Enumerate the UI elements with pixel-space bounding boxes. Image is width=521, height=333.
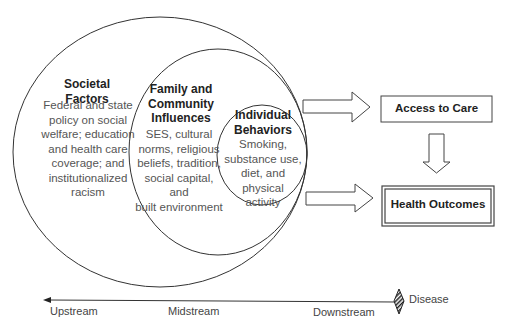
midstream-label: Midstream: [168, 305, 219, 317]
access-to-care-label: Access to Care: [381, 102, 492, 114]
text-line: activity: [223, 195, 303, 210]
text-line: Influences: [145, 111, 217, 126]
arrow-to-outcomes-icon: [306, 184, 373, 212]
text-line: Individual: [228, 108, 298, 123]
arrow-down-icon: [423, 134, 450, 173]
text-line: racism: [36, 185, 140, 200]
text-line: welfare; education: [36, 127, 140, 142]
text-line: Federal and state: [36, 98, 140, 113]
health-outcomes-label: Health Outcomes: [382, 198, 494, 210]
disease-label: Disease: [409, 293, 449, 305]
text-line: norms, religious: [134, 142, 224, 157]
text-line: policy on social: [36, 113, 140, 128]
downstream-label: Downstream: [313, 306, 375, 318]
text-line: beliefs, tradition,: [134, 156, 224, 171]
family-community-title: Family and Community Influences: [145, 82, 217, 126]
societal-factors-text: Federal and state policy on social welfa…: [36, 98, 140, 200]
text-line: diet, and: [223, 166, 303, 181]
text-line: built environment: [134, 200, 224, 215]
individual-behaviors-text: Smoking, substance use, diet, and physic…: [223, 137, 303, 210]
text-line: and health care: [36, 142, 140, 157]
text-line: SES, cultural: [134, 127, 224, 142]
text-line: Family and: [145, 82, 217, 97]
text-line: coverage; and: [36, 156, 140, 171]
text-line: social capital, and: [134, 171, 224, 200]
arrow-to-access-icon: [303, 92, 370, 122]
stream-axis-line: [48, 300, 396, 302]
text-line: Behaviors: [228, 123, 298, 138]
upstream-arrowhead-icon: [43, 297, 51, 303]
family-community-text: SES, cultural norms, religious beliefs, …: [134, 127, 224, 214]
upstream-label: Upstream: [50, 305, 98, 317]
disease-diamond-icon: [394, 289, 404, 314]
text-line: institutionalized: [36, 171, 140, 186]
text-line: Smoking,: [223, 137, 303, 152]
individual-behaviors-title: Individual Behaviors: [228, 108, 298, 137]
text-line: Community: [145, 97, 217, 112]
text-line: substance use,: [223, 152, 303, 167]
text-line: physical: [223, 181, 303, 196]
